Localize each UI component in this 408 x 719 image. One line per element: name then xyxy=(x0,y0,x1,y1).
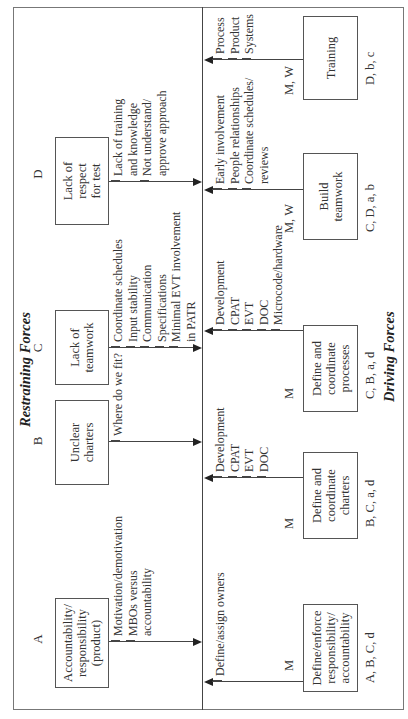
restraining-factors-c: Coordinate schedules Input stability Com… xyxy=(111,212,198,347)
arrow-up-icon xyxy=(204,56,213,64)
factor-item: Product xyxy=(228,14,243,59)
driving-owner-3: M xyxy=(282,388,297,399)
driving-stem-1 xyxy=(212,681,303,682)
factor-item: EVT xyxy=(242,225,257,330)
restraining-stem-b xyxy=(109,441,194,442)
driving-addresses-1: A, B, C, d xyxy=(363,632,378,683)
driving-box-build-teamwork: Build teamwork xyxy=(303,153,358,240)
driving-stem-5 xyxy=(212,59,303,60)
factor-item: MBOs versus accountability xyxy=(126,516,155,641)
restraining-stem-d xyxy=(109,181,194,182)
driving-addresses-4: C, D, a, b xyxy=(363,184,378,232)
restraining-stem-c xyxy=(109,347,194,348)
force-field-diagram: Restraining Forces Driving Forces A Acco… xyxy=(0,0,408,719)
restraining-stem-a xyxy=(109,641,194,642)
arrow-up-icon xyxy=(204,186,213,194)
driving-factors-4: Early involvement People relationships C… xyxy=(213,78,271,189)
restraining-letter-b: B xyxy=(30,431,46,451)
center-divider xyxy=(202,7,203,710)
factor-item: CPAT xyxy=(228,407,243,477)
restraining-letter-c: C xyxy=(30,338,46,358)
driving-factors-3: Development CPAT EVT DOC Microcode/hardw… xyxy=(213,225,286,330)
driving-owner-1: M xyxy=(282,660,297,671)
driving-owner-4: M, W xyxy=(282,204,297,233)
factor-item: CPAT xyxy=(228,225,243,330)
restraining-box-unclear-charters: Unclear charters xyxy=(55,400,109,485)
restraining-letter-a: A xyxy=(30,629,46,649)
arrow-up-icon xyxy=(204,327,213,335)
factor-item: DOC xyxy=(257,225,272,330)
factor-item: Coordinate schedules/ reviews xyxy=(242,78,271,189)
driving-stem-4 xyxy=(212,189,303,190)
factor-item: Communication xyxy=(140,212,155,347)
factor-item: People relationships xyxy=(228,78,243,189)
factor-item: Define/assign owners xyxy=(213,572,228,681)
driving-owner-2: M xyxy=(282,518,297,529)
driving-owner-5: M, W xyxy=(282,66,297,95)
restraining-box-accountability: Accountability/ responsibility (product) xyxy=(55,598,109,688)
arrow-up-icon xyxy=(204,678,213,686)
restraining-box-lack-of-teamwork: Lack of teamwork xyxy=(55,310,109,385)
driving-box-define-enforce: Define/enforce responsibility/ accountab… xyxy=(303,604,358,692)
arrow-down-icon xyxy=(193,178,202,186)
driving-factors-1: Define/assign owners xyxy=(213,572,228,681)
factor-item: DOC xyxy=(257,407,272,477)
factor-item: Process xyxy=(213,14,228,59)
driving-stem-2 xyxy=(212,477,303,478)
driving-stem-3 xyxy=(212,330,303,331)
factor-item: Motivation/demotivation xyxy=(111,516,126,641)
factor-item: EVT xyxy=(242,407,257,477)
factor-item: Input stability xyxy=(126,212,141,347)
restraining-letter-d: D xyxy=(30,164,46,184)
driving-box-define-charters: Define and coordinate charters xyxy=(303,452,358,539)
factor-item: Where do we fit? xyxy=(111,353,126,441)
restraining-factors-a: Motivation/demotivation MBOs versus acco… xyxy=(111,516,155,641)
factor-item: Systems xyxy=(242,14,257,59)
arrow-down-icon xyxy=(193,438,202,446)
factor-item: Minimal EVT involvement in PATR xyxy=(169,212,198,347)
driving-factors-5: Process Product Systems xyxy=(213,14,257,59)
arrow-down-icon xyxy=(193,638,202,646)
factor-item: Development xyxy=(213,225,228,330)
driving-forces-title: Driving Forces xyxy=(381,311,398,402)
restraining-forces-title: Restraining Forces xyxy=(17,312,34,427)
factor-item: Not understand/ approve approach xyxy=(140,90,169,181)
driving-addresses-3: C, B, a, d xyxy=(363,352,378,399)
restraining-box-lack-of-respect: Lack of respect for test xyxy=(55,137,109,225)
factor-item: Microcode/hardware xyxy=(271,225,286,330)
restraining-factors-d: Lack of training and knowledge Not under… xyxy=(111,90,169,181)
driving-addresses-2: B, C, a, d xyxy=(363,480,378,527)
driving-box-training: Training xyxy=(303,16,358,100)
factor-item: Coordinate schedules xyxy=(111,212,126,347)
factor-item: Early involvement xyxy=(213,78,228,189)
factor-item: Specifications xyxy=(155,212,170,347)
restraining-factors-b: Where do we fit? xyxy=(111,353,126,441)
factor-item: Development xyxy=(213,407,228,477)
factor-item: Lack of training and knowledge xyxy=(111,90,140,181)
arrow-up-icon xyxy=(204,474,213,482)
driving-box-define-processes: Define and coordinate processes xyxy=(303,325,358,412)
driving-factors-2: Development CPAT EVT DOC xyxy=(213,407,271,477)
driving-addresses-5: D, b, c xyxy=(363,52,378,85)
